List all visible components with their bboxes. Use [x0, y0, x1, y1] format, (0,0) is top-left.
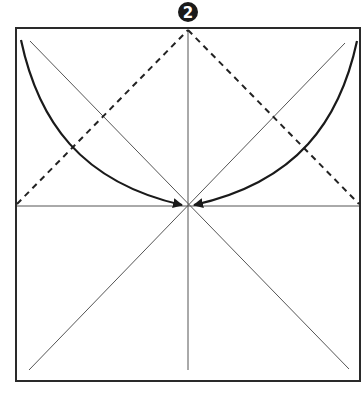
origami-diagram: 2 [0, 0, 364, 401]
step-number: 2 [183, 4, 193, 22]
step-number-badge: 2 [178, 2, 198, 22]
